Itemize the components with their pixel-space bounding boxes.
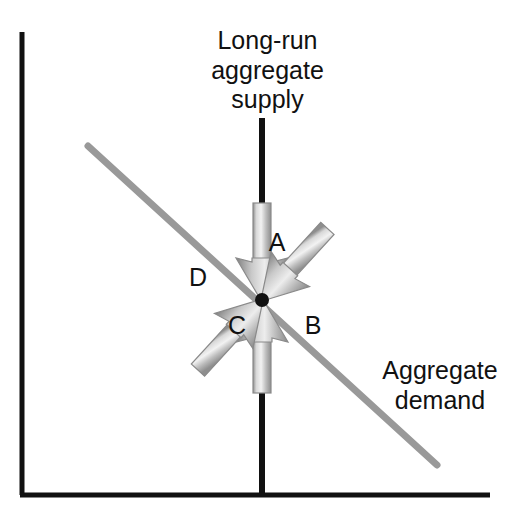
arrow-label-d: D [184,263,212,293]
aggregate-demand-label: Aggregatedemand [360,356,520,415]
arrow-label-c: C [223,311,251,341]
arrow-label-b: B [299,311,327,341]
equilibrium-dot [255,293,269,307]
lras-label-line-3: supply [231,85,303,113]
ad-label-line-1: Aggregate [382,356,497,384]
lras-label-line-1: Long-run [217,26,317,54]
long-run-aggregate-supply-label: Long-runaggregatesupply [160,26,375,115]
lras-label-line-2: aggregate [211,56,324,84]
arrow-label-a: A [263,228,291,258]
ad-label-line-2: demand [395,386,485,414]
aggregate-supply-demand-diagram: Long-runaggregatesupply Aggregatedemand … [0,0,524,527]
